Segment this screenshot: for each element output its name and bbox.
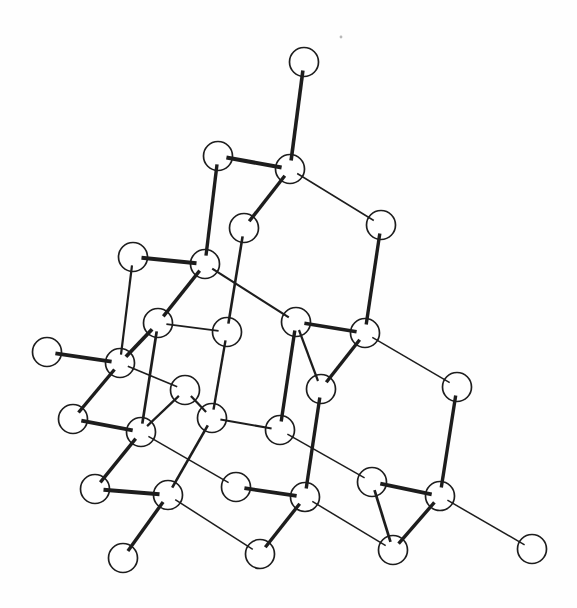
bond-n13-n17: [79, 370, 115, 413]
bond-n14-n18: [191, 396, 206, 412]
bond-n25-n29: [375, 490, 391, 542]
bond-n24-n28: [265, 504, 299, 548]
bond-n26-n29: [399, 502, 435, 543]
bond-n10-n15: [299, 330, 318, 381]
bond-n16-n26: [441, 395, 455, 487]
bond-n9-n18: [214, 340, 226, 409]
atom-n27: [109, 544, 138, 573]
bond-n19-n23: [148, 436, 228, 482]
bond-n7-n8: [163, 271, 199, 317]
bond-n15-n24: [306, 397, 320, 488]
bond-n21-n22: [104, 490, 160, 495]
bond-n1-n3: [291, 70, 303, 160]
bond-n7-n10: [212, 269, 289, 318]
bond-n12-n13: [55, 353, 111, 361]
bond-n10-n11: [304, 323, 356, 331]
bond-n22-n27: [128, 502, 163, 551]
atom-n9: [213, 318, 242, 347]
bond-n14-n19: [147, 396, 179, 426]
atom-n5: [230, 214, 259, 243]
bond-n3-n4: [297, 174, 374, 221]
scan-speck-1: [340, 36, 343, 39]
bond-n18-n22: [172, 425, 208, 487]
bond-n11-n16: [372, 337, 449, 382]
bond-n8-n9: [166, 324, 218, 331]
bond-n10-n20: [281, 330, 295, 421]
crystal-structure-diagram: [0, 0, 577, 608]
bond-n13-n14: [128, 366, 177, 386]
bond-n24-n29: [312, 501, 385, 545]
bond-n20-n25: [287, 434, 364, 478]
bond-n6-n7: [142, 258, 197, 263]
bond-n8-n13: [126, 329, 152, 357]
scanned-figure-page: [0, 0, 577, 608]
bond-n22-n28: [175, 500, 253, 550]
bond-n6-n13: [121, 265, 132, 354]
bond-n19-n21: [100, 439, 135, 483]
bond-n2-n7: [206, 164, 217, 255]
bond-n26-n30: [447, 500, 524, 545]
bond-n11-n15: [326, 340, 359, 383]
bond-n17-n19: [81, 421, 132, 431]
atom-n30: [518, 535, 547, 564]
bond-n4-n11: [366, 233, 380, 324]
bond-n25-n26: [380, 484, 431, 495]
bond-n2-n3: [226, 158, 281, 168]
atom-n25: [358, 468, 387, 497]
bond-n23-n24: [244, 488, 296, 496]
bond-n3-n5: [249, 176, 285, 222]
bond-n18-n20: [220, 420, 271, 429]
